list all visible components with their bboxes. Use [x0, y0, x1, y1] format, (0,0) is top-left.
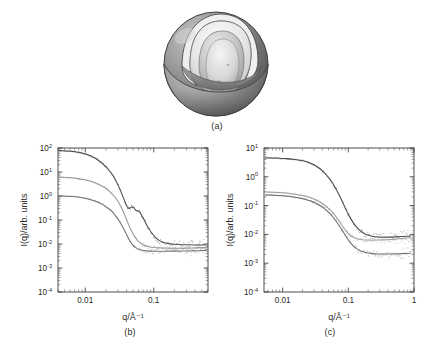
figure-container: (a) 0.010.110-410-310-210-1100101102q/Å⁻…: [0, 0, 434, 346]
y-tick-label: 10-2: [244, 229, 258, 239]
series-group-b: [57, 150, 208, 257]
panel-c-plot: 0.010.1110-410-310-210-1100101q/Å⁻¹I(q)/…: [222, 140, 422, 340]
plot-b: 0.010.110-410-310-210-1100101102q/Å⁻¹I(q…: [16, 140, 216, 340]
y-axis-title: I(q)/arb. units: [19, 193, 29, 247]
datapoints-c-0: [263, 157, 414, 242]
y-tick-label: 101: [246, 143, 258, 153]
y-tick-label: 100: [246, 171, 258, 181]
x-tick-label: 1: [412, 296, 417, 305]
x-tick-label: 0.01: [275, 296, 291, 305]
curve-c-0: [266, 158, 411, 237]
y-tick-label: 10-1: [38, 215, 52, 225]
x-tick-label: 0.1: [148, 296, 160, 305]
panel-a-schematic: [152, 2, 282, 124]
datapoints-c-1: [263, 191, 414, 245]
x-tick-label: 0.1: [343, 296, 355, 305]
y-tick-label: 10-2: [38, 239, 52, 249]
panel-b-caption: (b): [50, 327, 210, 337]
y-tick-label: 10-3: [244, 258, 258, 268]
x-axis-title: q/Å⁻¹: [328, 312, 350, 322]
y-tick-label: 10-1: [244, 200, 258, 210]
datapoints-b-0: [57, 150, 208, 251]
y-tick-label: 10-4: [38, 287, 52, 297]
y-tick-label: 10-4: [244, 287, 258, 297]
x-axis-c: 0.010.11: [275, 148, 417, 305]
x-axis-title: q/Å⁻¹: [122, 312, 144, 322]
minor-ticks-b: [58, 148, 208, 292]
panel-a-caption: (a): [152, 121, 282, 131]
y-axis-title: I(q)/arb. units: [225, 193, 235, 247]
x-tick-label: 0.01: [77, 296, 93, 305]
y-tick-label: 102: [40, 143, 52, 153]
curve-c-1: [266, 192, 411, 240]
y-axis-b: 10-410-310-210-1100101102: [38, 143, 208, 297]
plot-frame-b: [58, 148, 208, 292]
panel-b-plot: 0.010.110-410-310-210-1100101102q/Å⁻¹I(q…: [16, 140, 216, 340]
y-tick-label: 100: [40, 191, 52, 201]
plot-c: 0.010.1110-410-310-210-1100101q/Å⁻¹I(q)/…: [222, 140, 422, 340]
y-tick-label: 10-3: [38, 263, 52, 273]
curve-c-2: [266, 195, 411, 254]
y-tick-label: 101: [40, 167, 52, 177]
series-group-c: [263, 157, 414, 259]
datapoints-b-1: [57, 176, 208, 253]
datapoints-c-2: [263, 194, 414, 259]
curve-b-1: [59, 177, 206, 248]
panel-c-caption: (c): [250, 327, 410, 337]
y-axis-c: 10-410-310-210-1100101: [244, 143, 414, 297]
